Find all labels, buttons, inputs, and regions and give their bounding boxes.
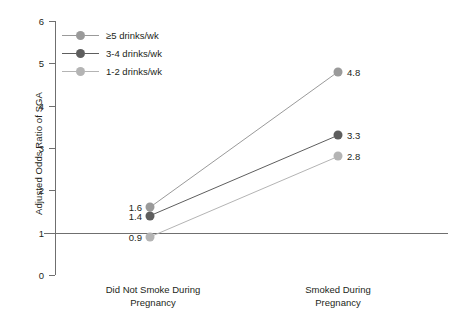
- x-category-left-line1: Did Not Smoke During: [78, 283, 228, 296]
- x-category-right-line1: Smoked During: [263, 283, 413, 296]
- data-label-s1-c0: 1.4: [110, 210, 142, 221]
- data-label-s0-c1: 4.8: [347, 66, 360, 77]
- data-label-s2-c1: 2.8: [347, 151, 360, 162]
- legend-marker-0: [76, 31, 85, 40]
- legend-line-right-2: [85, 71, 99, 72]
- legend-item-0: ≥5 drinks/wk: [62, 26, 162, 44]
- legend-marker-1: [76, 49, 85, 58]
- legend-label-2: 1-2 drinks/wk: [106, 66, 162, 77]
- legend-label-1: 3-4 drinks/wk: [106, 48, 162, 59]
- data-point-s1-c0: [146, 211, 155, 220]
- legend-item-1: 3-4 drinks/wk: [62, 44, 162, 62]
- legend-line-right-1: [85, 53, 99, 54]
- data-point-s2-c0: [146, 232, 155, 241]
- legend-line-left-0: [62, 35, 76, 36]
- x-category-label-right: Smoked During Pregnancy: [263, 283, 413, 309]
- legend-line-right-0: [85, 35, 99, 36]
- legend-item-2: 1-2 drinks/wk: [62, 62, 162, 80]
- legend: ≥5 drinks/wk 3-4 drinks/wk 1-2 drinks/wk: [62, 26, 162, 80]
- legend-line-left-2: [62, 71, 76, 72]
- legend-marker-2: [76, 67, 85, 76]
- series-line-0: [150, 72, 338, 207]
- data-point-s1-c1: [334, 131, 343, 140]
- data-point-s0-c1: [334, 67, 343, 76]
- series-line-2: [150, 156, 338, 236]
- data-label-s2-c0: 0.9: [110, 231, 142, 242]
- data-label-s1-c1: 3.3: [347, 130, 360, 141]
- x-category-right-line2: Pregnancy: [263, 296, 413, 309]
- legend-line-left-1: [62, 53, 76, 54]
- x-category-left-line2: Pregnancy: [78, 296, 228, 309]
- data-point-s2-c1: [334, 152, 343, 161]
- series-line-1: [150, 135, 338, 215]
- chart-figure: Adjusted Odds Ratio of SGA 0123456 1.64.…: [0, 0, 461, 320]
- x-category-label-left: Did Not Smoke During Pregnancy: [78, 283, 228, 309]
- legend-label-0: ≥5 drinks/wk: [106, 30, 159, 41]
